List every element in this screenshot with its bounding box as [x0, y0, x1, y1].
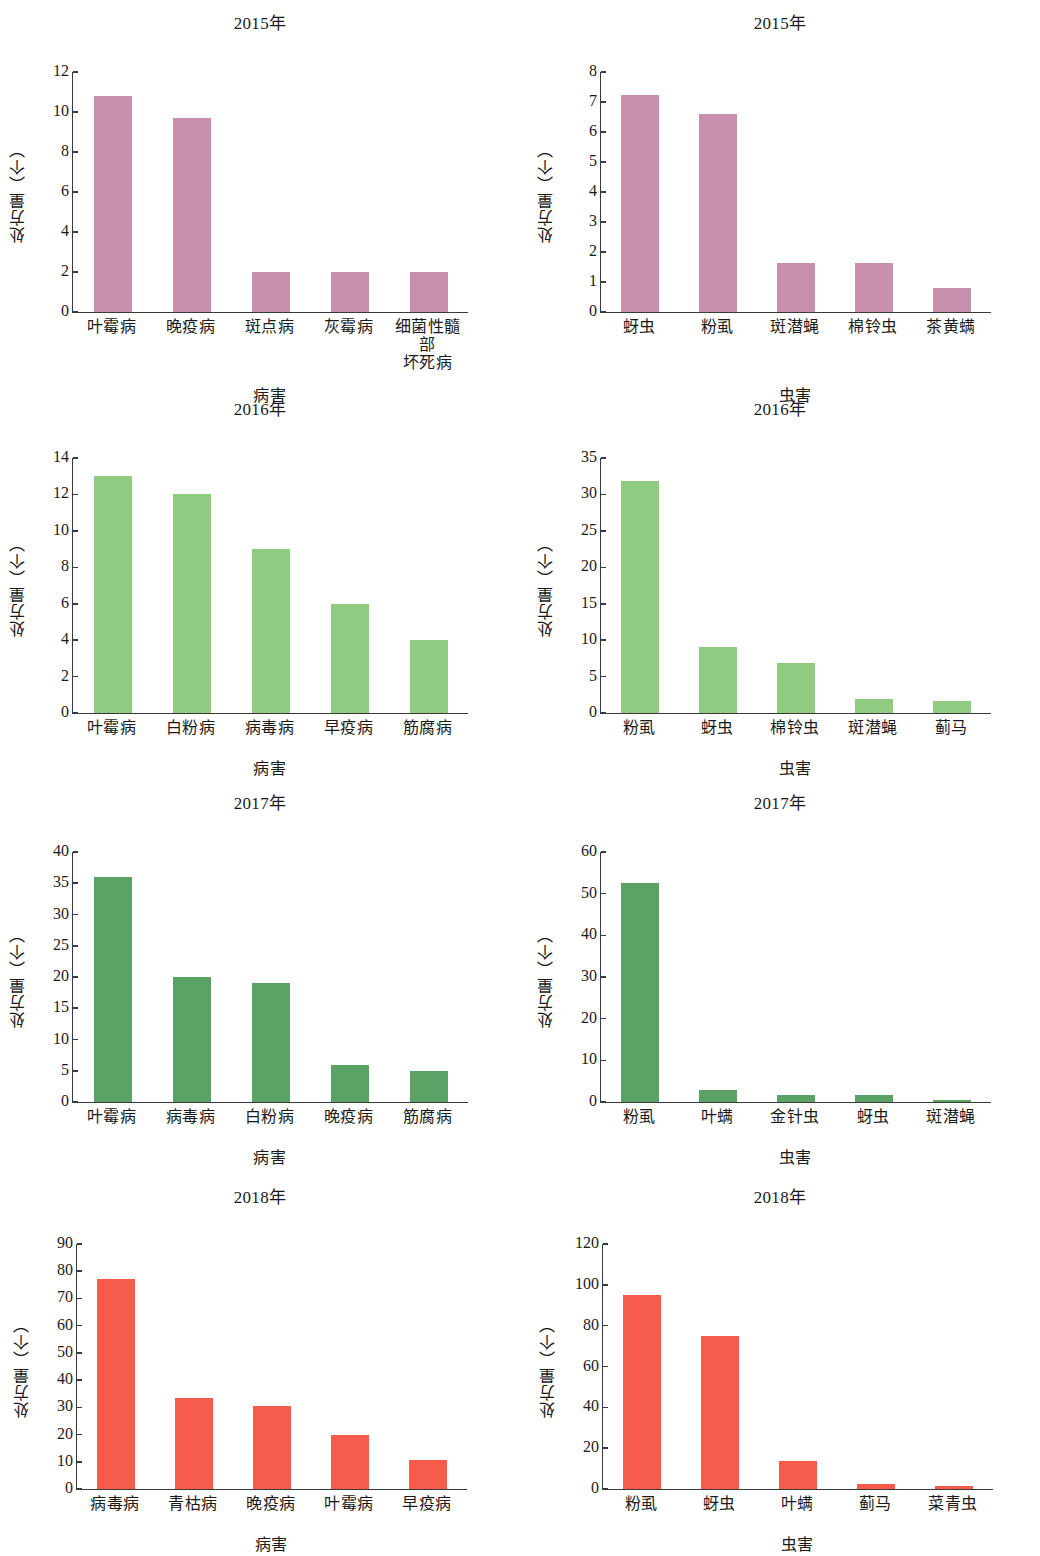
bar: [97, 1279, 135, 1489]
axes: 020406080100120: [602, 1244, 993, 1490]
y-axis-tick-label: 10: [57, 1453, 77, 1469]
bar: [855, 699, 893, 713]
y-axis-tick-label: 20: [583, 1439, 603, 1455]
plot-area: 处方量（个）0102030405060粉虱叶螨金针虫蚜虫斑潜蝇虫害: [520, 814, 1040, 1222]
chart-title: 2018年: [0, 1174, 520, 1208]
bar-slot: [603, 1244, 681, 1489]
y-axis-tick-label: 14: [53, 449, 73, 465]
y-axis-tick-label: 6: [589, 123, 601, 139]
chart-panel-pest-2018: 2018年处方量（个）020406080100120粉虱蚜虫叶螨蓟马菜青虫虫害: [520, 1174, 1040, 1534]
chart-panel-disease-2016: 2016年处方量（个）02468101214叶霉病白粉病病毒病早疫病筋腐病病害: [0, 386, 520, 780]
chart-title: 2016年: [0, 386, 520, 420]
x-axis-tick-label: 青枯病: [154, 1495, 232, 1513]
y-axis-label: 处方量（个）: [6, 458, 32, 713]
x-axis-tick-label: 斑潜蝇: [912, 1108, 990, 1126]
axes: 0102030405060708090: [76, 1244, 467, 1490]
bar-slot: [601, 458, 679, 713]
bar: [621, 883, 659, 1102]
bar-slot: [310, 852, 389, 1102]
y-axis-tick-label: 25: [53, 937, 73, 953]
x-axis-tick-label: 蓟马: [912, 719, 990, 737]
y-axis-tick-label: 60: [581, 843, 601, 859]
bar: [94, 476, 132, 713]
y-axis-tick-label: 8: [589, 63, 601, 79]
y-axis-tick-label: 60: [57, 1317, 77, 1333]
y-axis-tick-label: 50: [581, 885, 601, 901]
y-axis-tick-label: 25: [581, 522, 601, 538]
y-axis-tick-label: 20: [53, 968, 73, 984]
bar: [331, 1065, 369, 1103]
bar-slot: [835, 458, 913, 713]
bar: [699, 114, 737, 312]
y-axis-tick-label: 0: [61, 1093, 73, 1109]
x-axis-tick-label: 灰霉病: [309, 318, 388, 372]
y-axis-tick-label: 10: [581, 631, 601, 647]
y-axis-tick-label: 35: [581, 449, 601, 465]
x-axis-tick-label: 筋腐病: [388, 719, 467, 737]
bar: [173, 977, 211, 1102]
y-axis-tick-label: 6: [61, 183, 73, 199]
bar-slot: [73, 852, 152, 1102]
y-axis-tick-label: 100: [575, 1276, 603, 1292]
bar-slot: [231, 852, 310, 1102]
x-axis-tick-label: 叶螨: [758, 1495, 836, 1513]
x-axis-tick-labels: 叶霉病病毒病白粉病晚疫病筋腐病: [72, 1108, 467, 1126]
bar-slot: [152, 458, 231, 713]
bar-slot: [231, 72, 310, 312]
y-axis-label-text: 处方量（个）: [537, 1316, 561, 1418]
x-axis-tick-label: 细菌性髓部 坏死病: [388, 318, 467, 372]
y-axis-tick-label: 5: [589, 668, 601, 684]
bar: [779, 1461, 817, 1489]
bar: [410, 640, 448, 713]
bar-slot: [757, 852, 835, 1102]
x-axis-tick-label: 叶霉病: [72, 719, 151, 737]
y-axis-tick-label: 30: [581, 485, 601, 501]
y-axis-tick-label: 6: [61, 595, 73, 611]
y-axis-tick-label: 2: [61, 668, 73, 684]
y-axis-tick-label: 15: [581, 595, 601, 611]
y-axis-tick-label: 80: [57, 1262, 77, 1278]
chart-title: 2017年: [0, 780, 520, 814]
bar-slot: [915, 1244, 993, 1489]
bar-slot: [679, 72, 757, 312]
y-axis-tick-label: 4: [61, 223, 73, 239]
x-axis-label: 虫害: [779, 755, 812, 779]
bar-slot: [152, 852, 231, 1102]
x-axis-label: 虫害: [781, 1531, 814, 1555]
bar-slot: [155, 1244, 233, 1489]
plot-area: 处方量（个）012345678蚜虫粉虱斑潜蝇棉铃虫茶黄螨虫害: [520, 34, 1040, 432]
bar-slot: [757, 458, 835, 713]
y-axis-tick-label: 30: [53, 906, 73, 922]
bar-slot: [601, 852, 679, 1102]
x-axis-tick-label: 病毒病: [230, 719, 309, 737]
chart-panel-pest-2015: 2015年处方量（个）012345678蚜虫粉虱斑潜蝇棉铃虫茶黄螨虫害: [520, 0, 1040, 386]
bar: [933, 1100, 971, 1103]
bar: [855, 263, 893, 313]
bar: [94, 877, 132, 1102]
bar: [699, 647, 737, 713]
bar: [253, 1406, 291, 1489]
chart-panel-disease-2018: 2018年处方量（个）0102030405060708090病毒病青枯病晚疫病叶…: [0, 1174, 520, 1534]
bar-slot: [757, 72, 835, 312]
x-axis-tick-label: 茶黄螨: [912, 318, 990, 336]
plot-area: 处方量（个）05101520253035粉虱蚜虫棉铃虫斑潜蝇蓟马虫害: [520, 420, 1040, 833]
bar-slot: [311, 1244, 389, 1489]
bar: [621, 481, 659, 713]
bar-slot: [759, 1244, 837, 1489]
bar: [933, 701, 971, 713]
bar: [173, 494, 211, 713]
bar-slot: [679, 458, 757, 713]
y-axis-tick-label: 0: [61, 303, 73, 319]
y-axis-tick-label: 40: [581, 926, 601, 942]
y-axis-tick-label: 35: [53, 874, 73, 890]
bar-slot: [233, 1244, 311, 1489]
x-axis-tick-label: 病毒病: [151, 1108, 230, 1126]
bar-series: [77, 1244, 467, 1489]
x-axis-tick-label: 叶霉病: [72, 318, 151, 372]
x-axis-tick-labels: 蚜虫粉虱斑潜蝇棉铃虫茶黄螨: [600, 318, 990, 336]
bar: [252, 549, 290, 713]
bar: [777, 1095, 815, 1102]
x-axis-tick-labels: 叶霉病白粉病病毒病早疫病筋腐病: [72, 719, 467, 737]
x-axis-tick-label: 蚜虫: [600, 318, 678, 336]
